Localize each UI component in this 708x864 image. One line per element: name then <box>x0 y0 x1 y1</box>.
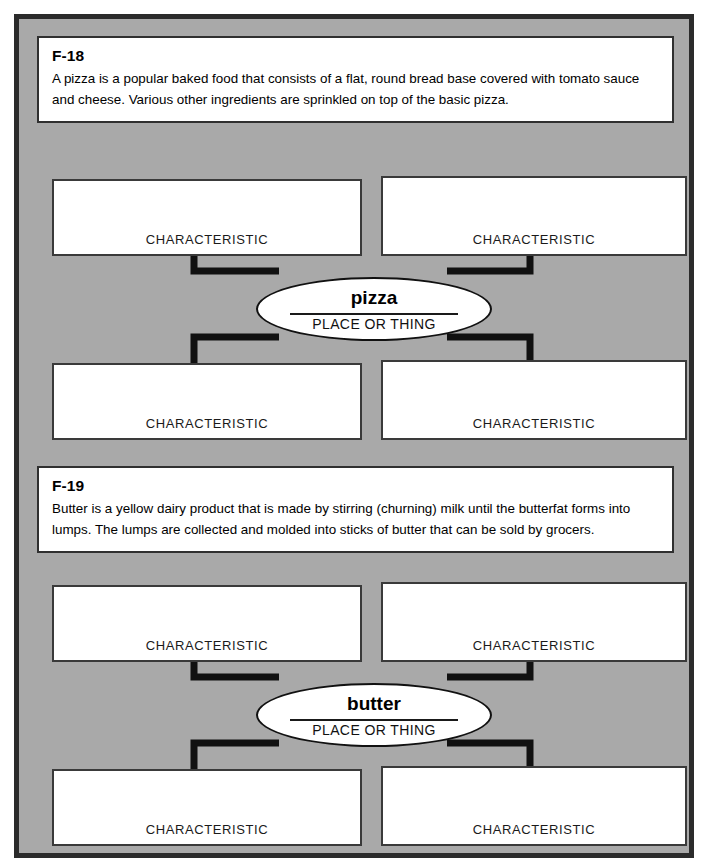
characteristic-box[interactable]: CHARACTERISTIC <box>381 582 687 662</box>
characteristic-box[interactable]: CHARACTERISTIC <box>52 179 362 256</box>
characteristic-label: CHARACTERISTIC <box>383 416 685 431</box>
center-kind-label: PLACE OR THING <box>258 722 490 738</box>
characteristic-box[interactable]: CHARACTERISTIC <box>381 176 687 256</box>
passage-panel-f19: F-19 Butter is a yellow dairy product th… <box>37 466 674 553</box>
characteristic-label: CHARACTERISTIC <box>54 232 360 247</box>
center-divider <box>290 313 458 315</box>
characteristic-box[interactable]: CHARACTERISTIC <box>381 360 687 440</box>
center-term: butter <box>258 693 490 715</box>
characteristic-box[interactable]: CHARACTERISTIC <box>52 769 362 846</box>
center-divider <box>290 719 458 721</box>
characteristic-box[interactable]: CHARACTERISTIC <box>52 585 362 662</box>
passage-code-f18: F-18 <box>52 47 659 65</box>
characteristic-label: CHARACTERISTIC <box>54 638 360 653</box>
passage-panel-f18: F-18 A pizza is a popular baked food tha… <box>37 36 674 123</box>
center-concept-ellipse-f19[interactable]: butter PLACE OR THING <box>256 683 492 747</box>
center-concept-ellipse-f18[interactable]: pizza PLACE OR THING <box>256 277 492 341</box>
center-kind-label: PLACE OR THING <box>258 316 490 332</box>
characteristic-label: CHARACTERISTIC <box>383 822 685 837</box>
passage-text-f18: A pizza is a popular baked food that con… <box>52 69 659 110</box>
characteristic-label: CHARACTERISTIC <box>54 822 360 837</box>
worksheet-page: F-18 A pizza is a popular baked food tha… <box>14 14 694 858</box>
characteristic-label: CHARACTERISTIC <box>54 416 360 431</box>
passage-text-f19: Butter is a yellow dairy product that is… <box>52 499 659 540</box>
characteristic-box[interactable]: CHARACTERISTIC <box>381 766 687 846</box>
passage-code-f19: F-19 <box>52 477 659 495</box>
center-term: pizza <box>258 287 490 309</box>
characteristic-label: CHARACTERISTIC <box>383 232 685 247</box>
characteristic-label: CHARACTERISTIC <box>383 638 685 653</box>
characteristic-box[interactable]: CHARACTERISTIC <box>52 363 362 440</box>
